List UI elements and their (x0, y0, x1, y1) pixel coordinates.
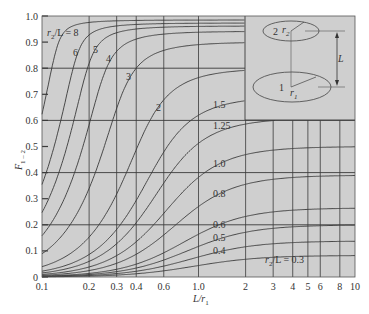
y-tick-label: 0.9 (26, 37, 39, 48)
y-tick-label: 0.1 (26, 245, 39, 256)
x-tick-label: 3 (271, 281, 276, 292)
inset-disk2-label: 2 (273, 26, 278, 37)
y-tick-label: 0.2 (26, 219, 39, 230)
x-tick-label: 1.0 (192, 281, 205, 292)
x-axis-title: L/r1 (192, 293, 209, 307)
curve-label: 1.0 (213, 158, 226, 169)
curve-label: 0.6 (213, 219, 226, 230)
inset-L-label: L (337, 53, 344, 64)
x-tick-label: 10 (350, 281, 360, 292)
curve-label: 5 (93, 44, 98, 55)
y-tick-label: 1.0 (26, 11, 39, 22)
x-tick-label: 8 (337, 281, 342, 292)
y-tick-label: 0.6 (26, 115, 39, 126)
x-tick-label: 0.1 (36, 281, 49, 292)
curve-label: 4 (106, 53, 111, 64)
y-tick-label: 0.7 (26, 89, 39, 100)
curve-label: 1.25 (213, 120, 231, 131)
x-tick-label: 0.2 (83, 281, 96, 292)
x-tick-label: 6 (318, 281, 323, 292)
x-tick-label: 0.4 (130, 281, 143, 292)
x-tick-label: 4 (290, 281, 295, 292)
inset-background (245, 16, 355, 120)
curve-label: 0.8 (213, 188, 226, 199)
inset-disk1-label: 1 (279, 82, 284, 93)
y-tick-label: 0.8 (26, 63, 39, 74)
curve-label: 3 (126, 71, 131, 82)
curve-label: 2 (156, 102, 161, 113)
view-factor-chart: 2 r2 1 r1 L 654321.51.251.00.80.60.50.4r… (0, 0, 369, 314)
x-tick-label: 5 (305, 281, 310, 292)
curve-label: 0.4 (213, 245, 226, 256)
x-tick-label: 2 (243, 281, 248, 292)
x-tick-label: 0.6 (158, 281, 171, 292)
y-tick-label: 0.3 (26, 193, 39, 204)
y-tick-label: 0.5 (26, 141, 39, 152)
y-tick-label: 0.4 (26, 167, 39, 178)
curve-label: 1.5 (213, 99, 226, 110)
geometry-inset: 2 r2 1 r1 L (245, 16, 355, 120)
curve-label: 6 (73, 47, 78, 58)
curve-label: 0.5 (213, 232, 226, 243)
x-tick-label: 0.3 (110, 281, 123, 292)
